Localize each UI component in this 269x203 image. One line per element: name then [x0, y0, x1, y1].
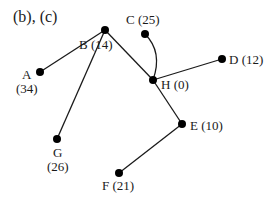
diagram-title: (b), (c) [13, 8, 57, 26]
label-a-value: (34) [16, 81, 38, 96]
label-g-name: G [53, 145, 62, 160]
node-e [178, 120, 186, 128]
node-c [141, 30, 149, 38]
nodes [36, 26, 226, 177]
label-d: D (12) [229, 52, 263, 67]
edges [40, 30, 222, 173]
label-h: H (0) [161, 77, 189, 92]
labels: A (34) B (14) C (25) H (0) D (12) G (26)… [16, 12, 263, 193]
node-d [218, 55, 226, 63]
label-f: F (21) [102, 178, 134, 193]
node-f [115, 169, 123, 177]
label-a-name: A [22, 67, 32, 82]
tree-diagram: (b), (c) A (34) B (14) C (25) H (0) D (1… [0, 0, 269, 203]
edge-e-f [119, 124, 182, 173]
label-c: C (25) [126, 12, 160, 27]
label-e: E (10) [190, 118, 223, 133]
label-b: B (14) [79, 37, 113, 52]
node-b [101, 26, 109, 34]
node-g [53, 135, 61, 143]
node-h [149, 76, 157, 84]
label-g-value: (26) [47, 159, 69, 174]
node-a [36, 68, 44, 76]
